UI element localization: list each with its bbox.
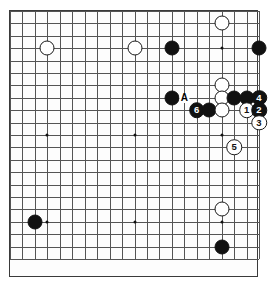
stone-move-5[interactable]: 5 (226, 140, 242, 156)
grid-line-horizontal (10, 147, 259, 148)
grid-line-horizontal (10, 197, 259, 198)
star-point (220, 220, 223, 223)
star-point (220, 134, 223, 137)
grid-line-horizontal (10, 36, 259, 37)
stone-black[interactable] (27, 214, 42, 229)
stone-white[interactable] (127, 41, 142, 56)
stone-black[interactable] (164, 90, 179, 105)
grid-line-horizontal (10, 73, 259, 74)
grid-line-horizontal (10, 11, 259, 12)
grid-line-horizontal (10, 234, 259, 235)
stone-white[interactable] (40, 41, 55, 56)
stone-black[interactable] (214, 239, 229, 254)
stone-white[interactable] (214, 103, 229, 118)
grid-line-horizontal (10, 185, 259, 186)
star-point (133, 134, 136, 137)
grid-line-horizontal (10, 123, 259, 124)
go-board[interactable]: 461235 A (9, 10, 258, 277)
go-diagram-container: 461235 A (0, 0, 270, 286)
board-label-a: A (180, 93, 189, 103)
grid-line-horizontal (10, 61, 259, 62)
grid-line-horizontal (10, 160, 259, 161)
star-point (133, 220, 136, 223)
stone-white[interactable] (214, 16, 229, 31)
grid-line-horizontal (10, 259, 259, 260)
star-point (46, 220, 49, 223)
grid-line-horizontal (10, 172, 259, 173)
star-point (46, 134, 49, 137)
stone-black[interactable] (252, 41, 267, 56)
stone-black[interactable] (164, 41, 179, 56)
stone-white[interactable] (214, 202, 229, 217)
stone-move-3[interactable]: 3 (251, 115, 267, 131)
star-point (220, 47, 223, 50)
